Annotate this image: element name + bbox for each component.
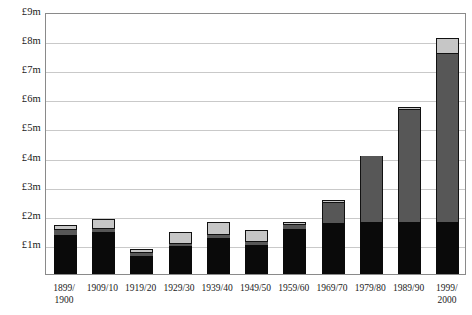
bar[interactable] [283, 222, 306, 274]
bar[interactable] [92, 219, 115, 274]
y-axis-tick-label: £9m [0, 6, 41, 17]
bars-layer [46, 14, 465, 274]
bar-segment-middle [398, 110, 421, 222]
bar-segment-top [436, 38, 459, 54]
bar-segment-middle [322, 203, 345, 223]
bar-segment-top [169, 232, 192, 244]
y-axis-tick-label: £3m [0, 181, 41, 192]
y-axis-tick-label: £5m [0, 122, 41, 133]
bar[interactable] [245, 230, 268, 274]
y-axis-tick-label: £6m [0, 93, 41, 104]
bar-segment-bottom [322, 223, 345, 274]
x-axis: 1899/ 19001909/101919/201929/301939/4019… [0, 283, 472, 315]
y-axis-tick-label: £4m [0, 152, 41, 163]
chart-root: £1m£2m£3m£4m£5m£6m£7m£8m£9m 1899/ 190019… [0, 0, 472, 315]
bar-segment-top [245, 230, 268, 242]
bar-segment-bottom [54, 235, 77, 274]
bar-segment-bottom [169, 246, 192, 274]
bar[interactable] [169, 232, 192, 274]
bar[interactable] [398, 107, 421, 274]
bar[interactable] [207, 222, 230, 274]
bar-segment-top [92, 219, 115, 229]
bar-segment-bottom [92, 232, 115, 274]
bar-segment-top [207, 222, 230, 235]
bar[interactable] [54, 225, 77, 274]
x-axis-tick-label: 1999/ 2000 [421, 283, 472, 306]
bar-segment-bottom [245, 245, 268, 274]
bar[interactable] [360, 156, 383, 274]
y-axis-tick-label: £2m [0, 210, 41, 221]
bar-segment-middle [436, 54, 459, 221]
bar-segment-bottom [436, 222, 459, 274]
plot-area [45, 13, 466, 275]
bar-segment-bottom [283, 229, 306, 274]
bar[interactable] [130, 249, 153, 274]
bar-segment-bottom [398, 222, 421, 274]
bar-segment-bottom [207, 238, 230, 274]
bar-segment-bottom [130, 256, 153, 274]
y-axis: £1m£2m£3m£4m£5m£6m£7m£8m£9m [0, 0, 41, 315]
bar-segment-bottom [360, 222, 383, 274]
y-axis-tick-label: £1m [0, 239, 41, 250]
bar[interactable] [322, 200, 345, 274]
y-axis-tick-label: £7m [0, 64, 41, 75]
y-axis-tick-label: £8m [0, 35, 41, 46]
bar[interactable] [436, 38, 459, 274]
bar-segment-middle [360, 156, 383, 222]
